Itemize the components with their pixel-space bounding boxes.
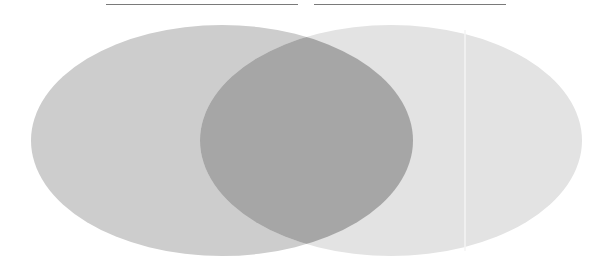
venn-diagram xyxy=(0,0,611,265)
